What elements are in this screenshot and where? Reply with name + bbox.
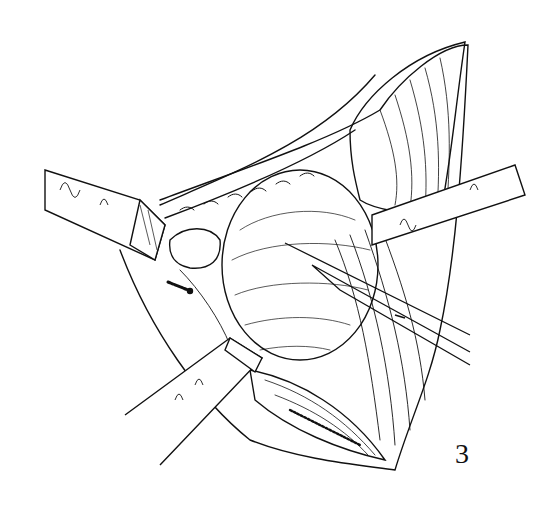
retractor-lower — [125, 338, 262, 465]
organ — [222, 170, 378, 360]
illustration-drawing — [0, 0, 556, 510]
fat-layer — [160, 75, 375, 218]
muscle-right — [335, 225, 425, 445]
surgical-illustration: 3 — [0, 0, 556, 510]
suture — [168, 282, 188, 290]
left-structure — [170, 229, 221, 269]
retractor-upper-left — [45, 170, 165, 260]
figure-number: 3 — [455, 438, 469, 470]
